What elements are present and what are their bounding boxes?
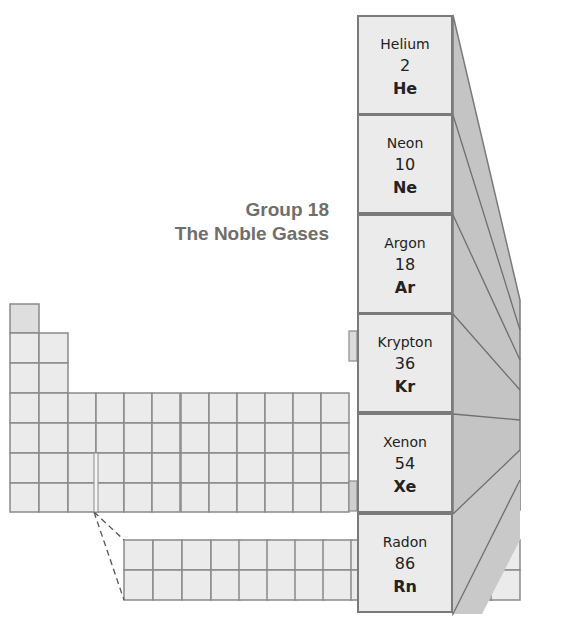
atomic-number: 86 [359,552,451,575]
element-symbol: Ne [359,176,451,199]
atomic-number: 36 [359,352,451,375]
noble-gases-diagram: Group 18 The Noble Gases Helium 2 He Neo… [0,0,561,636]
element-symbol: Kr [359,375,451,398]
periodic-table-outline [0,0,561,636]
element-name: Helium [359,34,451,54]
element-name: Krypton [359,332,451,352]
element-name: Xenon [359,432,451,452]
element-symbol: Xe [359,475,451,498]
atomic-number: 10 [359,153,451,176]
group-title: Group 18 [246,198,329,222]
element-neon: Neon 10 Ne [357,114,453,214]
atomic-number: 18 [359,253,451,276]
element-name: Neon [359,133,451,153]
atomic-number: 54 [359,452,451,475]
atomic-number: 2 [359,54,451,77]
element-symbol: He [359,77,451,100]
group-subtitle: The Noble Gases [175,222,329,246]
element-symbol: Ar [359,276,451,299]
element-radon: Radon 86 Rn [357,513,453,613]
element-name: Radon [359,532,451,552]
element-xenon: Xenon 54 Xe [357,413,453,513]
element-symbol: Rn [359,575,451,598]
element-name: Argon [359,233,451,253]
element-krypton: Krypton 36 Kr [357,313,453,413]
element-helium: Helium 2 He [357,15,453,115]
element-argon: Argon 18 Ar [357,214,453,314]
